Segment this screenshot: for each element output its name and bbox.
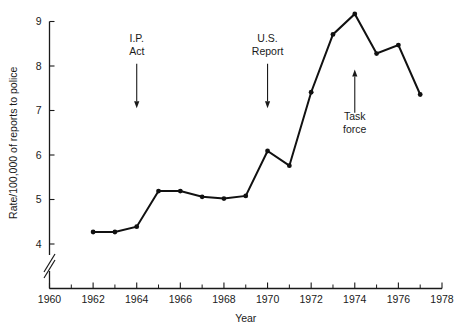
x-tick-label-1964: 1964 bbox=[125, 293, 149, 305]
data-point-1971 bbox=[287, 163, 292, 168]
x-tick-label-1974: 1974 bbox=[343, 293, 367, 305]
chart-figure: 4567891960196219641966196819701972197419… bbox=[0, 0, 457, 331]
tick-marks bbox=[50, 22, 443, 289]
data-point-1962 bbox=[91, 230, 96, 235]
annotation-ip-act-line2: Act bbox=[129, 45, 144, 57]
data-point-1970 bbox=[265, 149, 270, 154]
data-point-1976 bbox=[396, 43, 401, 48]
y-tick-label-6: 6 bbox=[36, 149, 42, 161]
y-tick-label-4: 4 bbox=[36, 238, 42, 250]
annotations: I.P.ActU.S.ReportTaskforce bbox=[129, 32, 366, 136]
data-point-1975 bbox=[374, 51, 379, 56]
x-tick-label-1966: 1966 bbox=[169, 293, 193, 305]
annotation-task-force-line2: force bbox=[343, 123, 367, 135]
annotation-us-report: U.S.Report bbox=[252, 32, 284, 109]
x-tick-label-1976: 1976 bbox=[387, 293, 411, 305]
axis-titles: YearRate/100,000 of reports to police bbox=[7, 66, 257, 323]
data-point-1974 bbox=[352, 12, 357, 17]
x-tick-label-1978: 1978 bbox=[430, 293, 454, 305]
x-tick-label-1972: 1972 bbox=[299, 293, 323, 305]
x-tick-label-1960: 1960 bbox=[38, 293, 62, 305]
data-point-1964 bbox=[134, 224, 139, 229]
axes bbox=[50, 22, 443, 289]
data-point-1977 bbox=[418, 92, 423, 97]
data-point-1973 bbox=[331, 32, 336, 37]
y-tick-label-8: 8 bbox=[36, 60, 42, 72]
tick-labels: 4567891960196219641966196819701972197419… bbox=[36, 15, 454, 304]
data-point-1972 bbox=[309, 90, 314, 95]
x-axis-title: Year bbox=[235, 312, 257, 324]
y-tick-label-9: 9 bbox=[36, 15, 42, 27]
x-tick-label-1970: 1970 bbox=[256, 293, 280, 305]
data-point-1968 bbox=[222, 196, 227, 201]
annotation-ip-act-arrow-head bbox=[134, 101, 139, 108]
annotation-ip-act: I.P.Act bbox=[129, 32, 144, 109]
data-point-1966 bbox=[178, 189, 183, 194]
line-chart: 4567891960196219641966196819701972197419… bbox=[0, 0, 457, 331]
data-point-1969 bbox=[243, 194, 248, 199]
annotation-us-report-line2: Report bbox=[252, 45, 284, 57]
x-tick-label-1962: 1962 bbox=[81, 293, 105, 305]
y-axis-title: Rate/100,000 of reports to police bbox=[7, 66, 19, 219]
x-tick-label-1968: 1968 bbox=[212, 293, 236, 305]
y-tick-label-7: 7 bbox=[36, 104, 42, 116]
data-point-1967 bbox=[200, 194, 205, 199]
annotation-task-force-arrow-head bbox=[352, 70, 357, 77]
data-point-1963 bbox=[113, 230, 118, 235]
annotation-ip-act-line1: I.P. bbox=[130, 32, 144, 44]
annotation-us-report-line1: U.S. bbox=[257, 32, 277, 44]
annotation-us-report-arrow-head bbox=[265, 101, 270, 108]
y-tick-label-5: 5 bbox=[36, 193, 42, 205]
data-point-1965 bbox=[156, 189, 161, 194]
annotation-task-force: Taskforce bbox=[343, 70, 367, 136]
